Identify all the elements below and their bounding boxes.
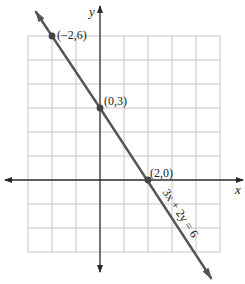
point-label-2-0: (2,0) (150, 166, 173, 180)
graph-line-3x-2y-6 (36, 12, 211, 278)
point-label-0-3: (0,3) (104, 94, 127, 108)
coordinate-plane: x y (−2,6) (0,3) (2,0) 3x + 2y = 6 (0, 0, 245, 284)
x-axis-label: x (234, 182, 241, 197)
point-label-neg2-6: (−2,6) (57, 28, 87, 42)
point-0-3 (97, 105, 104, 112)
y-axis-label: y (87, 4, 95, 19)
point-neg2-6 (49, 33, 56, 40)
